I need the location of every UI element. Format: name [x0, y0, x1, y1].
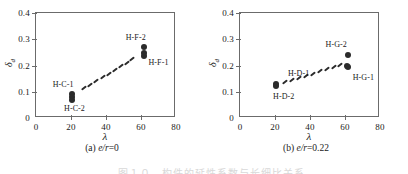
trend-dash-a-8 — [129, 56, 135, 61]
trend-dash-a-3 — [99, 75, 105, 80]
trend-dash-a-6 — [118, 64, 124, 69]
clipped-figure-caption: 图１０ 构件的延性系数与长细比关系 — [0, 166, 408, 174]
y-tick-label-a-4: 0.4 — [18, 8, 30, 18]
x-tick-a-1 — [71, 115, 72, 120]
y-tick-label-a-1: 0.1 — [18, 87, 30, 97]
x-tick-a-2 — [106, 115, 107, 120]
x-axis-label-a: λ — [35, 130, 175, 142]
plot-frame-a: 00.10.20.30.4020406080H-C-1H-C-2H-F-2H-F… — [35, 12, 175, 117]
chart-panel-b: δd 00.10.20.30.4020406080H-D-1H-D-2H-G-2… — [204, 0, 408, 160]
point-label-h-f-2: H-F-2 — [126, 33, 146, 42]
y-tick-b-1 — [236, 92, 241, 93]
y-tick-label-b-3: 0.3 — [222, 34, 234, 44]
y-tick-label-b-4: 0.4 — [222, 8, 234, 18]
point-label-h-g-2: H-G-2 — [326, 39, 347, 48]
point-label-h-c-2: H-C-2 — [64, 103, 85, 112]
figure-scatter-pair: δd 00.10.20.30.4020406080H-C-1H-C-2H-F-2… — [0, 0, 408, 174]
y-tick-a-2 — [32, 66, 37, 67]
y-tick-label-a-3: 0.3 — [18, 34, 30, 44]
y-tick-a-3 — [32, 39, 37, 40]
trend-dash-b-8 — [337, 63, 343, 68]
x-tick-b-3 — [345, 115, 346, 120]
trend-dash-a-2 — [93, 79, 99, 84]
trend-dash-b-7 — [331, 64, 337, 69]
trend-dash-a-1 — [87, 82, 93, 87]
trend-dash-b-5 — [317, 69, 323, 74]
y-tick-b-3 — [236, 39, 241, 40]
y-tick-a-1 — [32, 92, 37, 93]
point-label-h-f-1: H-F-1 — [148, 58, 168, 67]
point-label-h-d-1: H-D-1 — [288, 68, 309, 77]
y-tick-label-b-0: 0 — [229, 113, 234, 123]
panel-caption-a: (a) e/r=0 — [0, 143, 204, 153]
trend-dash-b-0 — [282, 80, 288, 85]
data-point-a-2 — [69, 97, 75, 103]
trend-dash-a-4 — [106, 71, 112, 76]
trend-dash-b-1 — [289, 77, 295, 82]
plot-area-a: 00.10.20.30.4020406080H-C-1H-C-2H-F-2H-F… — [36, 13, 174, 116]
x-tick-b-2 — [310, 115, 311, 120]
data-point-a-5 — [141, 53, 147, 59]
data-point-b-4 — [345, 64, 351, 70]
x-tick-b-1 — [275, 115, 276, 120]
point-label-h-d-2: H-D-2 — [273, 91, 294, 100]
y-axis-label-b: δd — [207, 59, 221, 67]
x-axis-label-b: λ — [239, 130, 379, 142]
trend-dash-b-4 — [310, 71, 316, 76]
y-axis-label-a: δd — [3, 59, 17, 67]
plot-frame-b: 00.10.20.30.4020406080H-D-1H-D-2H-G-2H-G… — [239, 12, 379, 117]
data-point-b-2 — [345, 52, 351, 58]
y-tick-a-4 — [32, 13, 37, 14]
y-tick-label-a-2: 0.2 — [18, 61, 30, 71]
y-tick-b-2 — [236, 66, 241, 67]
point-label-h-c-1: H-C-1 — [53, 80, 74, 89]
plot-area-b: 00.10.20.30.4020406080H-D-1H-D-2H-G-2H-G… — [240, 13, 378, 116]
data-point-a-3 — [141, 44, 147, 50]
y-tick-label-b-2: 0.2 — [222, 61, 234, 71]
chart-panel-a: δd 00.10.20.30.4020406080H-C-1H-C-2H-F-2… — [0, 0, 204, 160]
panel-caption-b: (b) e/r=0.22 — [204, 143, 408, 153]
y-tick-label-b-1: 0.1 — [222, 87, 234, 97]
trend-dash-a-5 — [112, 68, 118, 73]
data-point-b-1 — [273, 83, 279, 89]
trend-dash-b-6 — [324, 66, 330, 71]
y-tick-b-4 — [236, 13, 241, 14]
point-label-h-g-1: H-G-1 — [353, 72, 374, 81]
x-tick-a-3 — [141, 115, 142, 120]
y-tick-label-a-0: 0 — [25, 113, 30, 123]
